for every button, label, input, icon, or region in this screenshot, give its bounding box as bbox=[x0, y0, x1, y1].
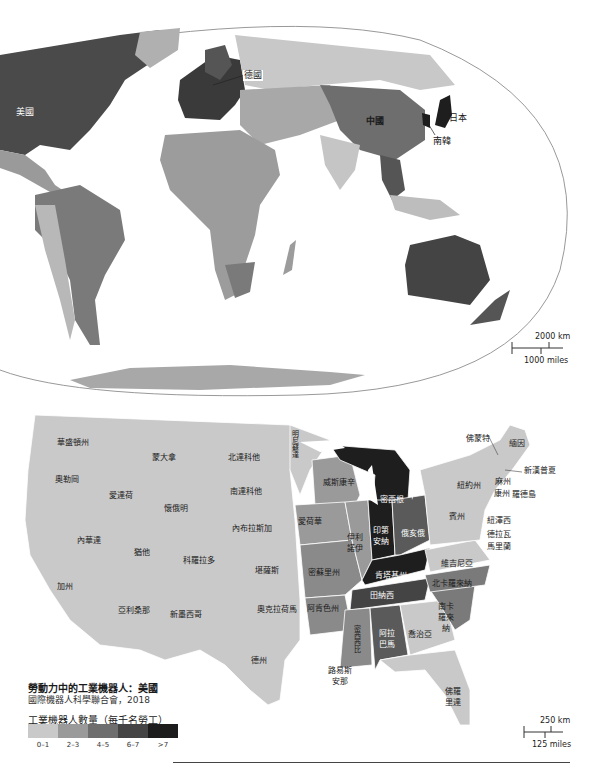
legend-swatch-0 bbox=[28, 724, 58, 738]
label-illinois: 伊利諾伊 bbox=[346, 532, 364, 554]
label-michigan: 密西根 bbox=[380, 494, 404, 505]
label-wyoming: 懷俄明 bbox=[164, 503, 188, 514]
label-texas: 德州 bbox=[251, 655, 267, 666]
legend-tick: 2–3 bbox=[58, 741, 88, 749]
footer-rule bbox=[173, 762, 570, 763]
label-wisconsin: 威斯康辛 bbox=[323, 477, 355, 488]
label-louisiana: 路易斯安那 bbox=[325, 665, 355, 687]
label-nevada: 內華達 bbox=[77, 535, 101, 546]
label-vermont: 佛蒙特 bbox=[466, 433, 490, 444]
label-new-hampshire: 新漢普夏 bbox=[524, 465, 556, 476]
label-new-mexico: 新墨西哥 bbox=[170, 609, 202, 620]
label-ohio: 俄亥俄 bbox=[401, 528, 425, 539]
label-delaware: 德拉瓦 bbox=[487, 529, 511, 540]
legend-tick: 6–7 bbox=[118, 741, 148, 749]
legend-swatch-2 bbox=[88, 724, 118, 738]
label-utah: 猶他 bbox=[134, 547, 150, 558]
label-maryland: 馬里蘭 bbox=[487, 541, 511, 552]
legend-source: 國際機器人科學聯合會，2018 bbox=[28, 693, 150, 706]
legend-color-bar bbox=[28, 724, 178, 738]
label-iowa: 愛荷華 bbox=[298, 516, 322, 527]
label-alabama: 阿拉巴馬 bbox=[378, 628, 396, 650]
legend-ticks: 0–1 2–3 4–5 6–7 >7 bbox=[28, 741, 178, 749]
label-new-jersey: 紐澤西 bbox=[487, 515, 511, 526]
label-georgia: 喬治亞 bbox=[408, 629, 432, 640]
label-tennessee: 田納西 bbox=[370, 590, 394, 601]
us-scale-km: 250 km bbox=[540, 716, 570, 725]
label-rhode-island: 羅德島 bbox=[512, 489, 536, 500]
label-idaho: 愛達荷 bbox=[109, 490, 133, 501]
label-north-dakota: 北達科他 bbox=[228, 452, 260, 463]
label-missouri: 密蘇里州 bbox=[308, 567, 340, 578]
legend-swatch-1 bbox=[58, 724, 88, 738]
label-maine: 緬因 bbox=[509, 438, 525, 449]
us-scale-miles: 125 miles bbox=[532, 740, 571, 749]
label-massachusetts: 麻州 bbox=[495, 476, 511, 487]
label-oklahoma: 奧克拉荷馬 bbox=[257, 604, 297, 615]
legend-tick: 4–5 bbox=[88, 741, 118, 749]
us-scale-bar bbox=[524, 726, 563, 738]
label-new-york: 紐約州 bbox=[457, 480, 481, 491]
label-north-carolina: 北卡羅來納 bbox=[432, 578, 472, 589]
label-arizona: 亞利桑那 bbox=[118, 605, 150, 616]
label-oregon: 奧勒岡 bbox=[55, 474, 79, 485]
legend-tick: >7 bbox=[148, 741, 178, 749]
label-minnesota: 明尼蘇達 bbox=[289, 430, 300, 458]
label-california: 加州 bbox=[57, 581, 73, 592]
label-kentucky: 肯塔基州 bbox=[375, 570, 407, 581]
label-arkansas: 阿肯色州 bbox=[307, 603, 339, 614]
label-indiana: 印第安納 bbox=[370, 525, 392, 547]
label-pennsylvania: 賓州 bbox=[449, 511, 465, 522]
us-map bbox=[0, 0, 596, 784]
label-south-dakota: 南達科他 bbox=[230, 486, 262, 497]
label-south-carolina: 南卡羅來納 bbox=[435, 601, 457, 634]
label-montana: 蒙大拿 bbox=[152, 452, 176, 463]
label-mississippi: 密西西比 bbox=[351, 625, 362, 653]
label-virginia: 維吉尼亞 bbox=[441, 558, 473, 569]
legend-swatch-4 bbox=[148, 724, 178, 738]
label-colorado: 科羅拉多 bbox=[183, 555, 215, 566]
label-connecticut: 康州 bbox=[494, 488, 510, 499]
legend-tick: 0–1 bbox=[28, 741, 58, 749]
label-nebraska: 內布拉斯加 bbox=[232, 523, 272, 534]
label-florida: 佛羅里達 bbox=[444, 686, 462, 708]
legend-swatch-3 bbox=[118, 724, 148, 738]
label-washington: 華盛頓州 bbox=[57, 437, 89, 448]
label-kansas: 堪薩斯 bbox=[255, 565, 279, 576]
